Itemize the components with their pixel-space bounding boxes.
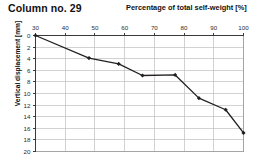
y-tick-label: 14	[17, 113, 31, 120]
y-tick-label: 2	[17, 44, 31, 51]
y-tick-label: 12	[17, 102, 31, 109]
x-tick-label: 70	[145, 24, 163, 31]
y-tick-label: 8	[17, 78, 31, 85]
x-tick-label: 100	[235, 24, 253, 31]
x-tick-label: 90	[205, 24, 223, 31]
data-point-marker	[87, 56, 91, 60]
x-tick-label: 40	[56, 24, 74, 31]
x-tick-label: 80	[175, 24, 193, 31]
y-tick-label: 16	[17, 125, 31, 132]
data-point-marker	[33, 33, 37, 37]
y-tick-label: 6	[17, 67, 31, 74]
axis-ticks	[33, 33, 244, 152]
series-line	[36, 36, 244, 133]
data-point-marker	[140, 73, 144, 77]
y-tick-label: 4	[17, 55, 31, 62]
y-tick-label: 10	[17, 90, 31, 97]
x-tick-label: 30	[27, 24, 45, 31]
grid-lines	[36, 36, 244, 152]
y-tick-label: 18	[17, 136, 31, 143]
x-tick-label: 60	[116, 24, 134, 31]
y-tick-label: 0	[17, 32, 31, 39]
chart-figure: Column no. 29 Percentage of total self-w…	[0, 0, 269, 159]
x-tick-label: 50	[86, 24, 104, 31]
y-tick-label: 20	[17, 148, 31, 155]
data-point-marker	[117, 62, 121, 66]
